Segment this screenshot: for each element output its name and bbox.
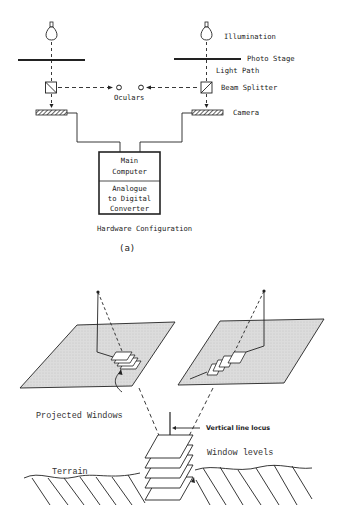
- hardware-configuration-caption: Hardware Configuration: [97, 224, 192, 233]
- right-beam-splitter-icon: [201, 82, 212, 93]
- projection-figure: Projected Windows Vertical line locus Wi…: [20, 289, 324, 505]
- light-path-label: Light Path: [216, 66, 259, 75]
- illumination-label: Illumination: [224, 32, 276, 41]
- right-camera-icon: [192, 110, 223, 115]
- panel-label-a: (a): [119, 243, 135, 253]
- beam-splitter-label: Beam Splitter: [221, 83, 278, 92]
- adc-line1: Analogue: [112, 184, 147, 193]
- window-levels-label: Window levels: [207, 448, 273, 458]
- camera-label: Camera: [233, 108, 259, 117]
- projected-windows-label: Projected Windows: [36, 411, 123, 421]
- oculars-label: Oculars: [114, 93, 144, 102]
- diagram-canvas: Oculars Illumination Photo Stage Light P…: [0, 0, 339, 505]
- hardware-configuration-figure: Oculars Illumination Photo Stage Light P…: [18, 22, 295, 253]
- main-computer-line2: Computer: [112, 167, 147, 176]
- right-ocular-icon: [139, 85, 144, 90]
- left-camera-icon: [36, 110, 67, 115]
- left-light-bulb-icon: [46, 22, 57, 40]
- right-light-bulb-icon: [201, 22, 212, 40]
- window-levels-stack: [145, 435, 193, 500]
- terrain-label: Terrain: [52, 467, 88, 477]
- photo-stage-label: Photo Stage: [247, 54, 295, 63]
- left-ocular-icon: [117, 85, 122, 90]
- computer-box: Main Computer Analogue to Digital Conver…: [99, 152, 160, 214]
- left-beam-splitter-icon: [46, 82, 57, 93]
- adc-line2: to Digital: [108, 194, 151, 203]
- main-computer-line1: Main: [121, 156, 138, 165]
- adc-line3: Converter: [110, 204, 150, 213]
- vertical-line-locus-label: Vertical line locus: [206, 424, 270, 432]
